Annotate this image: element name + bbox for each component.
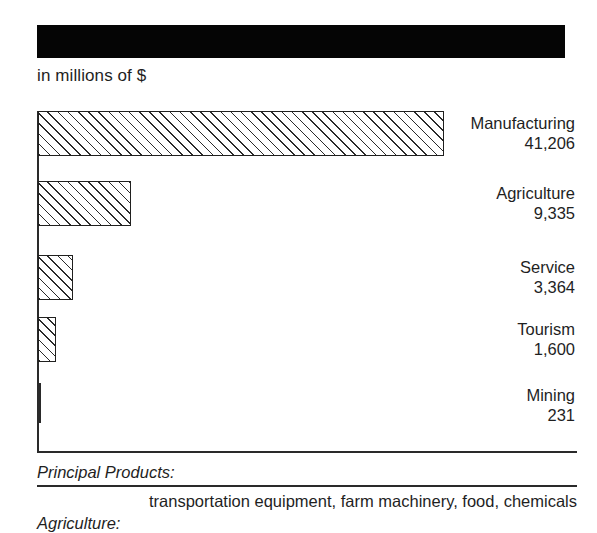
agriculture-label: Agriculture: — [37, 514, 120, 533]
bar-label-mining: Mining 231 — [526, 386, 575, 425]
bar-row-mining: Mining 231 — [0, 383, 597, 449]
principal-products-value: transportation equipment, farm machinery… — [121, 491, 577, 511]
bar-row-tourism: Tourism 1,600 — [0, 317, 597, 383]
bar-agriculture[interactable] — [38, 181, 131, 226]
bar-label-agriculture: Agriculture 9,335 — [496, 184, 575, 223]
bar-value-agriculture: 9,335 — [496, 204, 575, 224]
bar-mining[interactable] — [38, 383, 41, 423]
bar-row-agriculture: Agriculture 9,335 — [0, 181, 597, 247]
bar-tourism[interactable] — [38, 317, 56, 362]
bar-row-manufacturing: Manufacturing 41,206 — [0, 111, 597, 177]
principal-products-rule — [37, 485, 577, 487]
header-banner-bar — [37, 25, 565, 58]
bar-category-service: Service — [520, 258, 575, 278]
bar-value-mining: 231 — [526, 406, 575, 426]
principal-products-label: Principal Products: — [37, 463, 175, 482]
bar-category-manufacturing: Manufacturing — [470, 114, 575, 134]
bar-label-manufacturing: Manufacturing 41,206 — [470, 114, 575, 153]
bar-label-service: Service 3,364 — [520, 258, 575, 297]
chart-x-axis-line — [37, 451, 577, 453]
bar-value-manufacturing: 41,206 — [470, 134, 575, 154]
bar-manufacturing[interactable] — [38, 111, 444, 156]
bar-value-tourism: 1,600 — [517, 340, 575, 360]
units-caption: in millions of $ — [37, 66, 146, 86]
bar-chart: Manufacturing 41,206 Agriculture 9,335 S… — [0, 105, 597, 455]
bar-category-agriculture: Agriculture — [496, 184, 575, 204]
bar-category-mining: Mining — [526, 386, 575, 406]
bar-value-service: 3,364 — [520, 278, 575, 298]
bar-label-tourism: Tourism 1,600 — [517, 320, 575, 359]
bar-category-tourism: Tourism — [517, 320, 575, 340]
bar-row-service: Service 3,364 — [0, 255, 597, 321]
bar-service[interactable] — [38, 255, 73, 300]
